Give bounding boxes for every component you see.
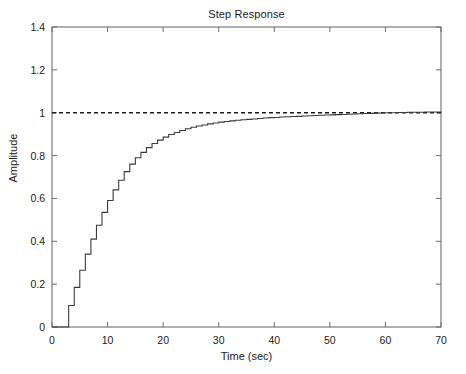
y-tick-label: 0 (39, 321, 45, 333)
chart-plot-area: 010203040506070 00.20.40.60.811.21.4 (0, 0, 466, 374)
x-tick-label: 40 (268, 334, 280, 346)
y-tick-label: 0.6 (30, 192, 45, 204)
y-axis-ticks: 00.20.40.60.811.21.4 (30, 21, 441, 333)
x-tick-label: 20 (157, 334, 169, 346)
figure-canvas: Step Response Amplitude Time (sec) 01020… (0, 0, 466, 374)
x-tick-label: 70 (435, 334, 447, 346)
x-tick-label: 30 (213, 334, 225, 346)
y-tick-label: 1.4 (30, 21, 45, 33)
step-response-series (52, 112, 441, 327)
y-tick-label: 0.4 (30, 235, 45, 247)
x-axis-ticks: 010203040506070 (49, 27, 447, 346)
y-tick-label: 1.2 (30, 64, 45, 76)
x-tick-label: 0 (49, 334, 55, 346)
y-tick-label: 0.2 (30, 278, 45, 290)
x-tick-label: 10 (102, 334, 114, 346)
x-tick-label: 50 (324, 334, 336, 346)
y-tick-label: 1 (39, 107, 45, 119)
axes-frame (52, 27, 441, 327)
y-tick-label: 0.8 (30, 150, 45, 162)
x-tick-label: 60 (380, 334, 392, 346)
